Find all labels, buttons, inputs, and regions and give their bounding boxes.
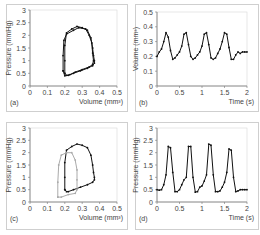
data-point (93, 172, 95, 174)
x-tick-label: 0.5 (175, 205, 185, 212)
data-point (181, 184, 183, 186)
y-tick-label: 3 (149, 125, 153, 132)
data-point (71, 28, 73, 30)
data-point (57, 196, 59, 198)
x-tick-label: 1.5 (220, 205, 230, 212)
data-point (176, 54, 178, 56)
chart-b: 00.511.5200.10.20.30.40.5Volume (mm³)Tim… (132, 9, 254, 108)
x-tick-label: 0.5 (112, 205, 122, 212)
data-point (64, 189, 66, 191)
data-point (217, 191, 219, 193)
data-point (62, 70, 64, 72)
data-point (239, 189, 241, 191)
x-tick-label: 0 (155, 89, 159, 96)
data-point (76, 179, 78, 181)
y-tick-label: 3 (22, 7, 26, 14)
data-point (210, 57, 212, 59)
data-series (65, 144, 95, 192)
data-point (217, 53, 219, 55)
data-point (161, 189, 163, 191)
data-point (176, 191, 178, 193)
data-point (174, 57, 176, 59)
plot-area (30, 128, 117, 202)
plot-area (157, 128, 247, 202)
data-point (92, 64, 94, 66)
data-point (206, 174, 208, 176)
data-point (199, 51, 201, 53)
data-point (92, 181, 94, 183)
data-point (228, 148, 230, 150)
x-tick-label: 0.4 (95, 89, 105, 96)
data-point (188, 146, 190, 148)
data-point (63, 40, 65, 42)
data-point (221, 41, 223, 43)
data-point (170, 147, 172, 149)
panel-label: (c) (10, 215, 18, 223)
data-point (93, 62, 95, 64)
y-tick-label: 3 (22, 125, 26, 132)
data-point (158, 51, 160, 53)
data-point (64, 162, 66, 164)
data-point (170, 50, 172, 52)
data-point (58, 164, 60, 166)
x-tick-label: 2 (245, 89, 249, 96)
x-axis-label: Time (s) (229, 98, 254, 106)
y-tick-label: 1 (149, 174, 153, 181)
x-tick-label: 1.5 (220, 89, 230, 96)
data-point (87, 184, 89, 186)
data-point (69, 74, 71, 76)
data-point (93, 60, 95, 62)
y-axis-label: Pressure (mmHg) (5, 20, 13, 75)
data-point (93, 176, 95, 178)
data-point (87, 147, 89, 149)
data-point (66, 191, 68, 193)
data-point (179, 189, 181, 191)
data-point (242, 51, 244, 53)
y-tick-label: 0 (22, 83, 26, 90)
data-point (230, 58, 232, 60)
x-tick-label: 0.3 (77, 205, 87, 212)
data-point (226, 172, 228, 174)
data-point (244, 51, 246, 53)
x-tick-label: 0.5 (175, 89, 185, 96)
data-point (174, 191, 176, 193)
y-tick-label: 1 (22, 174, 26, 181)
y-axis-label: Volume (mm³) (132, 27, 140, 71)
data-point (76, 26, 78, 28)
y-tick-label: 1.5 (16, 45, 26, 52)
data-point (88, 66, 90, 68)
y-tick-label: 2 (149, 149, 153, 156)
x-tick-label: 1 (200, 205, 204, 212)
data-point (215, 191, 217, 193)
x-tick-label: 0.3 (77, 89, 87, 96)
data-point (90, 154, 92, 156)
data-point (78, 27, 80, 29)
data-point (66, 33, 68, 35)
data-point (237, 51, 239, 53)
data-point (91, 42, 93, 44)
panel-label: (a) (10, 99, 19, 107)
data-point (192, 176, 194, 178)
y-tick-label: 2 (22, 32, 26, 39)
data-point (161, 48, 163, 50)
data-point (185, 32, 187, 34)
x-tick-label: 0.1 (43, 205, 53, 212)
y-tick-label: 0.1 (143, 68, 153, 75)
y-tick-label: 0 (22, 199, 26, 206)
plot-area (30, 10, 117, 86)
data-point (208, 44, 210, 46)
data-point (181, 45, 183, 47)
data-point (179, 51, 181, 53)
y-axis-label: Pressure (mmHg) (5, 137, 13, 192)
data-point (215, 57, 217, 59)
data-point (201, 185, 203, 187)
data-point (197, 191, 199, 193)
data-point (81, 69, 83, 71)
y-tick-label: 1.5 (16, 162, 26, 169)
data-point (206, 32, 208, 34)
figure-canvas: 00.10.20.30.40.500.511.522.53Pressure (m… (0, 0, 260, 235)
x-tick-label: 0 (155, 205, 159, 212)
data-point (244, 189, 246, 191)
data-point (163, 184, 165, 186)
y-tick-label: 0.5 (143, 9, 153, 16)
